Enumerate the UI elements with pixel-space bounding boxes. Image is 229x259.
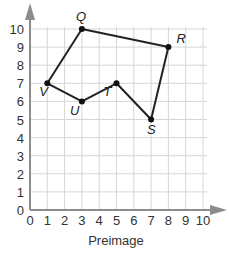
x-tick-label: 3: [78, 213, 85, 228]
y-tick-label: 4: [17, 131, 24, 146]
x-tick-label: 1: [44, 213, 51, 228]
vertex-label-t: T: [104, 84, 113, 99]
tick-labels: 012345678910012345678910: [10, 22, 211, 228]
vertex-point-t: [114, 80, 120, 86]
coordinate-plane-chart: 012345678910012345678910 QRSTUV Preimage: [0, 0, 229, 259]
y-tick-label: 5: [17, 113, 24, 128]
x-axis-arrow-icon: [210, 205, 227, 215]
x-tick-label: 9: [182, 213, 189, 228]
y-tick-label: 3: [17, 149, 24, 164]
y-tick-label: 8: [17, 58, 24, 73]
y-tick-label: 0: [17, 203, 24, 218]
vertex-point-u: [79, 98, 85, 104]
y-axis-arrow-icon: [25, 3, 35, 20]
x-axis-label: Preimage: [88, 233, 144, 248]
axes: [25, 3, 227, 215]
vertex-label-s: S: [147, 122, 156, 137]
x-tick-label: 7: [147, 213, 154, 228]
vertex-label-r: R: [176, 31, 185, 46]
x-tick-label: 2: [61, 213, 68, 228]
vertex-point-q: [79, 26, 85, 32]
x-tick-label: 6: [130, 213, 137, 228]
polygon-qrstuv: [47, 29, 168, 120]
vertex-point-r: [165, 44, 171, 50]
x-tick-label: 4: [96, 213, 103, 228]
grid-lines: [30, 27, 207, 210]
vertex-points: QRSTUV: [39, 9, 185, 137]
vertex-label-v: V: [39, 84, 49, 99]
vertex-label-u: U: [70, 103, 80, 118]
x-tick-label: 5: [113, 213, 120, 228]
y-tick-label: 7: [17, 76, 24, 91]
polygon-outline: [47, 29, 168, 120]
x-tick-label: 8: [165, 213, 172, 228]
y-tick-label: 2: [17, 167, 24, 182]
y-tick-label: 1: [17, 185, 24, 200]
vertex-label-q: Q: [76, 9, 86, 24]
x-tick-label: 10: [196, 213, 210, 228]
y-tick-label: 6: [17, 94, 24, 109]
y-tick-label: 9: [17, 40, 24, 55]
y-tick-label: 10: [10, 22, 24, 37]
x-tick-label: 0: [26, 213, 33, 228]
